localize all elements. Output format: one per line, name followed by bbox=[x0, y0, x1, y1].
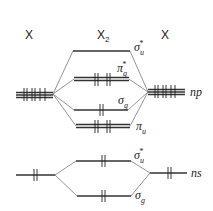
mo-sigma-g-p: σg bbox=[74, 93, 128, 116]
svg-text:σu*: σu* bbox=[134, 147, 144, 165]
mo-sigma-g-s: σg bbox=[77, 188, 145, 205]
left-atom-label: X bbox=[25, 28, 33, 42]
svg-text:πu: πu bbox=[136, 119, 146, 136]
mo-diagram: X X2 X bbox=[0, 0, 213, 211]
svg-text:σg: σg bbox=[135, 188, 145, 205]
right-ns-level bbox=[150, 167, 187, 179]
molecule-label: X2 bbox=[97, 28, 110, 44]
ns-label: ns bbox=[191, 166, 202, 180]
np-label: np bbox=[190, 85, 202, 99]
mo-pi-g-star: πg* bbox=[74, 60, 129, 86]
right-np-level bbox=[148, 85, 185, 98]
mo-pi-u: πu bbox=[76, 119, 146, 136]
right-atom-label: X bbox=[161, 28, 169, 42]
mo-sigma-u-star-s: σu* bbox=[76, 147, 144, 167]
svg-text:σg: σg bbox=[118, 93, 128, 110]
svg-text:πg*: πg* bbox=[117, 60, 127, 78]
left-np-level bbox=[16, 88, 53, 101]
p-correlation-lines bbox=[53, 51, 148, 126]
svg-text:σu*: σu* bbox=[134, 39, 144, 57]
left-ns-level bbox=[16, 169, 55, 181]
